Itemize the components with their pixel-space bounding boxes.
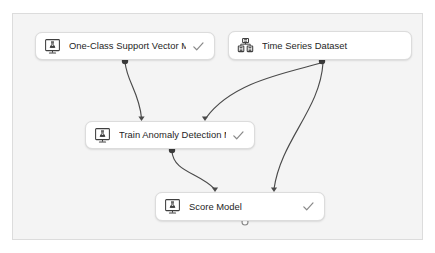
check-icon [192,40,205,53]
pipeline-node-train-anomaly-detection-model[interactable]: Train Anomaly Detection M... [85,121,255,149]
node-label: Train Anomaly Detection M... [119,130,226,139]
node-label: One-Class Support Vector M... [69,41,186,50]
pipeline-node-score-model[interactable]: Score Model [155,192,325,221]
pipeline-node-time-series-dataset[interactable]: Time Series Dataset [228,31,412,60]
module-icon [44,38,61,55]
module-icon [94,127,111,144]
pipeline-node-one-class-svm[interactable]: One-Class Support Vector M... [35,32,215,60]
node-label: Score Model [189,202,296,211]
pipeline-designer: One-Class Support Vector M...Time Series… [0,0,435,253]
dataset-icon [237,37,254,54]
check-icon [302,200,315,213]
module-icon [164,198,181,215]
check-icon [232,129,245,142]
node-label: Time Series Dataset [262,41,402,50]
